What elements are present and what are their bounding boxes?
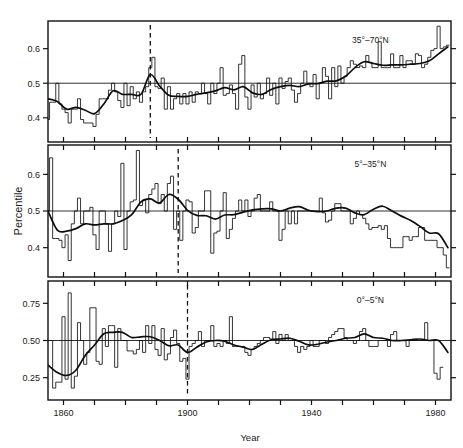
y-tick-label: 0.6 xyxy=(27,170,40,180)
y-tick-label: 0.5 xyxy=(27,206,40,216)
y-axis-title: Percentile xyxy=(12,187,24,236)
percentile-timeseries-chart: 0.40.50.635°–70°N0.40.50.65°–35°N0.250.5… xyxy=(0,0,463,448)
y-tick-label: 0.4 xyxy=(27,113,40,123)
y-tick-label: 0.25 xyxy=(22,373,40,383)
panel-label: 35°–70°N xyxy=(352,35,389,45)
y-tick-label: 0.6 xyxy=(27,44,40,54)
y-tick-label: 0.75 xyxy=(22,299,40,309)
x-axis-title: Year xyxy=(240,432,259,443)
x-tick-label: 1900 xyxy=(177,408,197,418)
x-tick-label: 1860 xyxy=(53,408,73,418)
x-tick-label: 1980 xyxy=(425,408,445,418)
y-tick-label: 0.4 xyxy=(27,243,40,253)
y-tick-label: 0.5 xyxy=(27,79,40,89)
x-tick-label: 1940 xyxy=(301,408,321,418)
figure-root: 0.40.50.635°–70°N0.40.50.65°–35°N0.250.5… xyxy=(0,0,463,448)
panel-label: 5°–35°N xyxy=(354,159,386,169)
panel-label: 0°–5°N xyxy=(357,295,384,305)
y-tick-label: 0.50 xyxy=(22,336,40,346)
